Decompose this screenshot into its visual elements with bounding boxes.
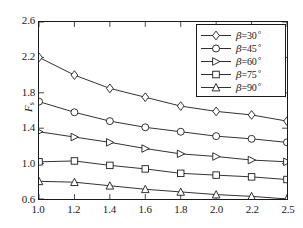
legend-item-2: β=45° [199, 41, 283, 54]
legend-label: β=90° [233, 81, 261, 93]
legend-item-5: β=90° [199, 80, 283, 93]
data-point-marker [39, 128, 43, 136]
data-point-marker [71, 133, 78, 141]
data-point-marker [284, 176, 287, 182]
data-point-marker [213, 107, 220, 116]
x-tick-label: 1.0 [21, 203, 55, 215]
x-tick-label: 1.6 [128, 203, 162, 215]
data-point-marker [248, 135, 255, 142]
legend-item-3: β=60° [199, 54, 283, 67]
legend-label: β=45° [233, 42, 261, 54]
data-point-marker [39, 159, 42, 165]
legend-marker-sample [199, 41, 233, 54]
data-point-marker [39, 53, 42, 62]
legend-marker-sample [199, 28, 233, 41]
data-point-marker [177, 150, 184, 158]
legend-marker-sample [199, 54, 233, 67]
y-axis-tick-labels: 0.61.01.41.82.22.6 [0, 0, 35, 228]
series-2 [39, 98, 287, 146]
data-point-marker [106, 118, 113, 125]
x-tick-label: 1.8 [164, 203, 198, 215]
legend-label: β=30° [233, 29, 261, 41]
legend-degree-symbol: ° [257, 81, 261, 91]
data-point-marker [71, 109, 78, 116]
data-point-marker [284, 139, 287, 146]
x-tick-label: 1.4 [92, 203, 126, 215]
x-tick-label: 2.0 [200, 203, 234, 215]
legend-degree-symbol: ° [257, 29, 261, 39]
data-point-marker [177, 128, 184, 135]
y-tick-label: 1.0 [1, 158, 35, 169]
legend-degree-symbol: ° [257, 42, 261, 52]
y-tick-label: 1.4 [1, 122, 35, 133]
legend-degree-symbol: ° [257, 68, 261, 78]
data-point-marker [142, 124, 149, 131]
y-tick-label: 2.2 [1, 51, 35, 62]
data-point-marker [142, 145, 149, 153]
data-point-marker [284, 117, 287, 126]
legend-marker-sample [199, 67, 233, 80]
data-point-marker [248, 174, 255, 180]
legend-value-text: =30 [242, 30, 257, 41]
legend-value-text: =45 [242, 43, 257, 54]
series-5 [39, 177, 287, 199]
data-point-marker [71, 71, 78, 80]
data-point-marker [107, 162, 114, 168]
y-tick-label: 1.8 [1, 87, 35, 98]
data-point-marker [248, 111, 255, 120]
data-point-marker [39, 98, 42, 105]
data-point-marker [142, 166, 149, 172]
data-point-marker [284, 158, 287, 166]
legend-item-4: β=75° [199, 67, 283, 80]
data-point-marker [248, 192, 256, 199]
data-point-marker [213, 153, 220, 161]
data-point-marker [106, 84, 113, 93]
data-point-marker [142, 93, 149, 102]
legend-marker-sample [199, 80, 233, 93]
legend-label: β=75° [233, 68, 261, 80]
legend-item-1: β=30° [199, 28, 283, 41]
y-tick-label: 2.6 [1, 15, 35, 26]
data-point-marker [106, 139, 113, 147]
x-tick-label: 1.2 [57, 203, 91, 215]
chart-figure: Fs 0.61.01.41.82.22.6 1.01.21.41.61.82.0… [0, 0, 303, 228]
legend-label: β=60° [233, 55, 261, 67]
legend-value-text: =75 [242, 69, 257, 80]
legend-value-text: =90 [242, 82, 257, 93]
x-tick-label: 2.2 [235, 203, 269, 215]
legend-degree-symbol: ° [257, 55, 261, 65]
data-point-marker [213, 172, 220, 178]
x-tick-label: 2.5 [271, 203, 303, 215]
data-point-marker [177, 170, 184, 176]
data-point-marker [177, 102, 184, 111]
data-point-marker [71, 158, 78, 164]
data-point-marker [248, 156, 255, 164]
legend: β=30°β=45°β=60°β=75°β=90° [196, 24, 286, 97]
legend-value-text: =60 [242, 56, 257, 67]
data-point-marker [213, 133, 220, 140]
